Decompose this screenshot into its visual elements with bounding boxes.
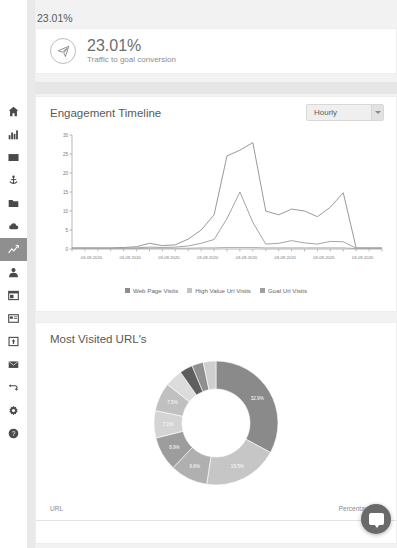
chevron-down-icon	[371, 105, 383, 120]
envelope-icon	[8, 149, 19, 167]
trend-chart-icon	[8, 241, 19, 259]
svg-text:03-09-2020: 03-09-2020	[119, 255, 141, 260]
folder-icon	[8, 195, 19, 213]
interval-dropdown-value: Hourly	[307, 108, 371, 117]
engagement-title: Engagement Timeline	[50, 107, 161, 119]
svg-text:03-09-2020: 03-09-2020	[352, 255, 374, 260]
svg-text:30: 30	[63, 133, 69, 138]
section-divider-band	[35, 82, 397, 94]
donut-slice-label: 8.9%	[169, 445, 179, 450]
svg-text:?: ?	[12, 429, 16, 436]
svg-text:5: 5	[65, 228, 68, 233]
sidebar-item-pages[interactable]	[0, 284, 27, 307]
sidebar-item-mail[interactable]	[0, 146, 27, 169]
sidebar-item-files[interactable]	[0, 192, 27, 215]
legend-label: Goal Url Visits	[268, 287, 307, 294]
engagement-line-chart: 05101520253003-09-202003-09-202003-09-20…	[46, 129, 386, 281]
page-scroll-area[interactable]: 23.01% 23.01% Traffic to goal conversion…	[27, 0, 397, 548]
chat-bubble-button[interactable]	[361, 504, 391, 534]
svg-text:03-09-2020: 03-09-2020	[197, 255, 219, 260]
gear-icon	[8, 402, 19, 420]
chat-bubble-icon	[369, 513, 384, 525]
svg-text:03-09-2020: 03-09-2020	[236, 255, 258, 260]
legend-swatch	[187, 288, 192, 293]
urls-donut-chart: 32.9%19.5%9.8%8.9%7.1%7.5%	[36, 351, 396, 501]
top-metric-value: 23.01%	[37, 12, 73, 24]
sidebar-item-campaigns[interactable]	[0, 353, 27, 376]
sidebar-item-contacts[interactable]	[0, 261, 27, 284]
sidebar-item-home[interactable]	[0, 100, 27, 123]
sidebar-item-browser[interactable]	[0, 307, 27, 330]
legend-label: Web Page Visits	[133, 287, 178, 294]
window-icon	[8, 287, 19, 305]
kpi-subtitle: Traffic to goal conversion	[87, 55, 176, 64]
column-header-url: URL	[50, 505, 63, 512]
sidebar-item-anchor[interactable]	[0, 169, 27, 192]
paper-plane-icon	[50, 38, 76, 64]
cloud-icon	[8, 218, 19, 236]
user-icon	[8, 264, 19, 282]
engagement-legend: Web Page Visits High Value Url Visits Go…	[36, 287, 396, 294]
svg-text:03-09-2020: 03-09-2020	[274, 255, 296, 260]
bar-chart-icon	[8, 126, 19, 144]
page-gutter	[27, 0, 35, 548]
refresh-icon	[8, 379, 19, 397]
engagement-timeline-card: Engagement Timeline Hourly 0510152025300…	[35, 96, 397, 312]
most-visited-urls-card: Most Visited URL's 32.9%19.5%9.8%8.9%7.1…	[35, 322, 397, 544]
browser-icon	[8, 310, 19, 328]
svg-text:03-09-2020: 03-09-2020	[313, 255, 335, 260]
donut-slice-label: 32.9%	[251, 396, 264, 401]
donut-slice-label: 9.8%	[190, 464, 200, 469]
app-root: ? 23.01% 23.01% Traffic to goal conversi…	[0, 0, 397, 548]
donut-slice-label: 7.1%	[163, 422, 173, 427]
sidebar: ?	[0, 0, 27, 548]
help-icon: ?	[8, 425, 19, 443]
urls-table-header: URL Percentage	[36, 501, 396, 521]
sidebar-nav-list: ?	[0, 100, 27, 445]
sidebar-item-sync[interactable]	[0, 376, 27, 399]
svg-text:25: 25	[63, 152, 69, 157]
donut-slice-label: 7.5%	[167, 400, 177, 405]
svg-text:0: 0	[65, 247, 68, 252]
kpi-value: 23.01%	[87, 38, 176, 55]
sidebar-item-media[interactable]	[0, 330, 27, 353]
home-icon	[8, 103, 19, 121]
legend-swatch	[260, 288, 265, 293]
image-icon	[8, 333, 19, 351]
anchor-icon	[8, 172, 19, 190]
legend-swatch	[125, 288, 130, 293]
interval-dropdown[interactable]: Hourly	[306, 104, 384, 121]
donut-slice-label: 19.5%	[231, 464, 244, 469]
envelope-open-icon	[8, 356, 19, 374]
sidebar-item-help[interactable]: ?	[0, 422, 27, 445]
sidebar-item-engagement[interactable]	[0, 238, 27, 261]
svg-text:20: 20	[63, 171, 69, 176]
legend-label: High Value Url Visits	[195, 287, 251, 294]
legend-item[interactable]: Web Page Visits	[125, 287, 178, 294]
svg-text:03-09-2020: 03-09-2020	[158, 255, 180, 260]
kpi-card: 23.01% Traffic to goal conversion	[35, 28, 397, 74]
sidebar-item-settings[interactable]	[0, 399, 27, 422]
donut-slice[interactable]	[216, 361, 278, 453]
sidebar-item-analytics[interactable]	[0, 123, 27, 146]
legend-item[interactable]: High Value Url Visits	[187, 287, 251, 294]
sidebar-item-cloud[interactable]	[0, 215, 27, 238]
svg-text:03-09-2020: 03-09-2020	[81, 255, 103, 260]
svg-text:15: 15	[63, 190, 69, 195]
legend-item[interactable]: Goal Url Visits	[260, 287, 307, 294]
svg-text:10: 10	[63, 209, 69, 214]
urls-title: Most Visited URL's	[50, 333, 147, 345]
